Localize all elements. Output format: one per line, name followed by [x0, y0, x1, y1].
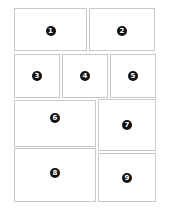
number-badge: 3 — [32, 71, 42, 81]
number-badge: 6 — [50, 113, 60, 123]
panel-7: 7 — [98, 99, 156, 151]
number-badge: 1 — [46, 26, 56, 36]
number-badge: 2 — [117, 26, 127, 36]
panel-2: 2 — [89, 8, 155, 51]
number-badge: 5 — [128, 71, 138, 81]
panel-4: 4 — [62, 54, 108, 98]
panel-5: 5 — [110, 54, 156, 98]
panel-1: 1 — [14, 8, 87, 51]
panel-3: 3 — [14, 54, 60, 98]
panel-9: 9 — [98, 153, 156, 202]
number-badge: 9 — [122, 173, 132, 183]
number-badge: 4 — [80, 71, 90, 81]
number-badge: 8 — [50, 168, 60, 178]
number-badge: 7 — [122, 120, 132, 130]
panel-8: 8 — [14, 148, 96, 202]
panel-6: 6 — [14, 100, 96, 147]
